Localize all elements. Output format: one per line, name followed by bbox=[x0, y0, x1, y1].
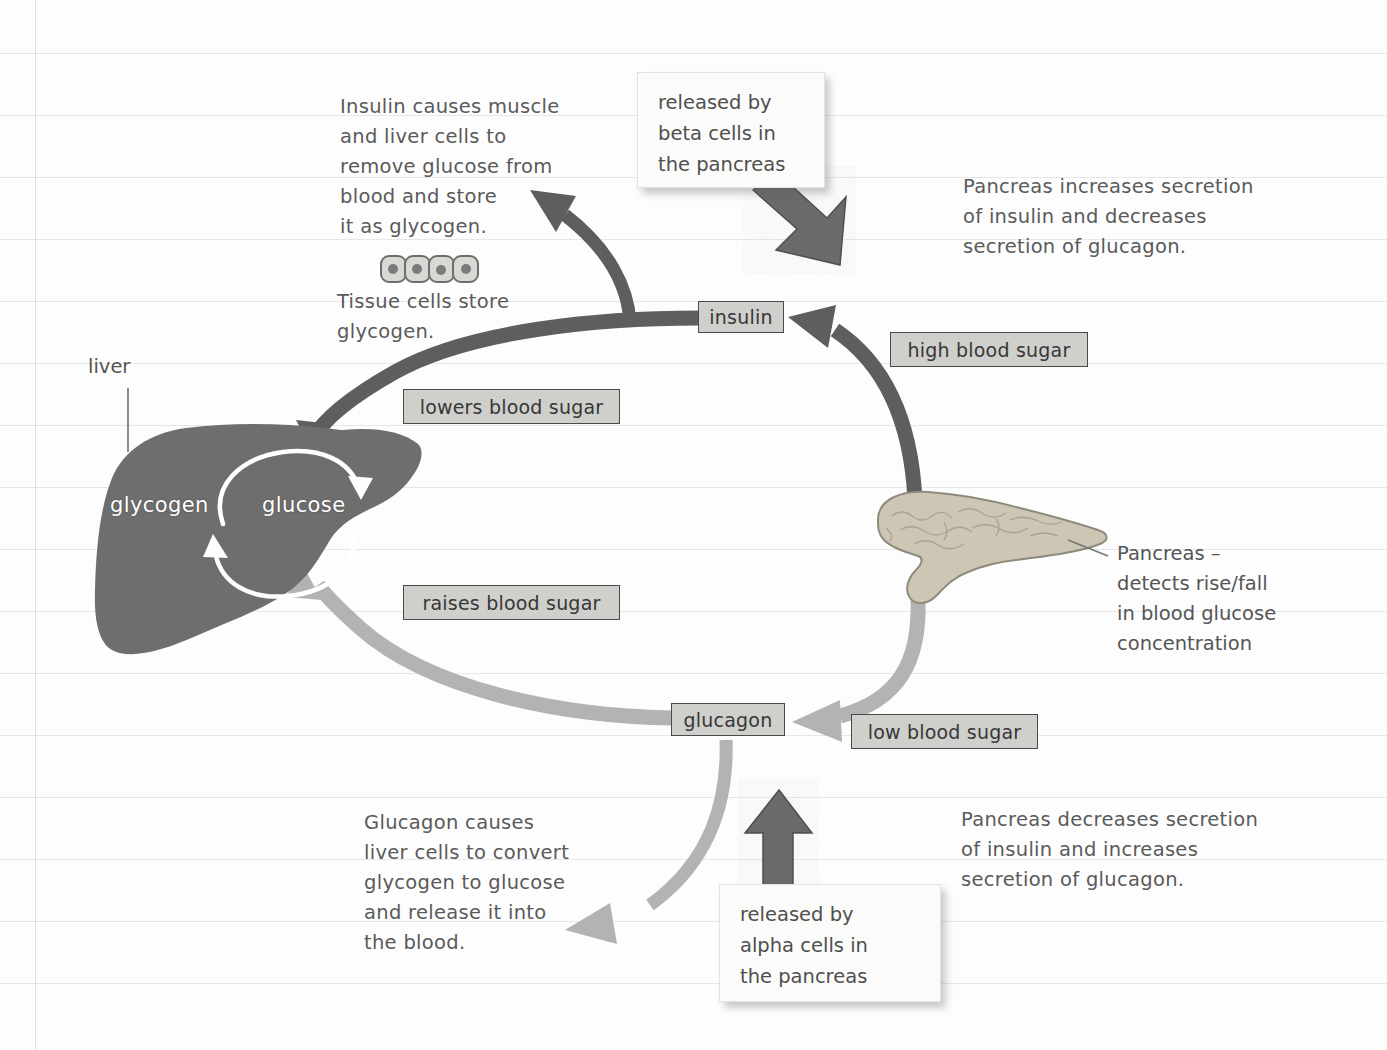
card-beta-cells: released by beta cells in the pancreas bbox=[637, 72, 825, 188]
liver-label: liver bbox=[88, 352, 130, 382]
pancreas-illustration bbox=[878, 492, 1108, 603]
tissue-cells-icon bbox=[381, 256, 478, 282]
liver-illustration bbox=[95, 388, 422, 654]
chip-low-blood-sugar[interactable]: low blood sugar bbox=[851, 714, 1038, 749]
chip-insulin[interactable]: insulin bbox=[698, 301, 784, 333]
glucagon-branch-arrow bbox=[565, 740, 726, 944]
chip-glucagon[interactable]: glucagon bbox=[671, 703, 785, 736]
note-pancreas-low-response: Pancreas decreases secretion of insulin … bbox=[961, 805, 1258, 895]
card-alpha-cells: released by alpha cells in the pancreas bbox=[719, 884, 941, 1002]
pancreas-label: Pancreas – detects rise/fall in blood gl… bbox=[1117, 539, 1276, 659]
chip-high-blood-sugar[interactable]: high blood sugar bbox=[890, 332, 1088, 367]
note-tissue-cells: Tissue cells store glycogen. bbox=[337, 287, 509, 347]
liver-term-glucose: glucose bbox=[262, 493, 346, 517]
beta-cells-block-arrow bbox=[753, 175, 846, 265]
note-glucagon-effect: Glucagon causes liver cells to convert g… bbox=[364, 808, 569, 958]
diagram-canvas: Insulin causes muscle and liver cells to… bbox=[0, 0, 1387, 1050]
liver-term-glycogen: glycogen bbox=[110, 493, 209, 517]
note-insulin-effect: Insulin causes muscle and liver cells to… bbox=[340, 92, 560, 242]
note-pancreas-high-response: Pancreas increases secretion of insulin … bbox=[963, 172, 1254, 262]
chip-lowers-blood-sugar[interactable]: lowers blood sugar bbox=[403, 389, 620, 424]
chip-raises-blood-sugar[interactable]: raises blood sugar bbox=[403, 585, 620, 620]
